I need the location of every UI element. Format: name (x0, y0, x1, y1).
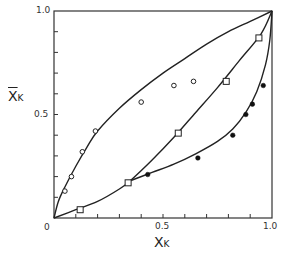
y-axis-label-main: X (8, 88, 18, 104)
x-axis-label-sub: K (164, 239, 170, 249)
y-tick-1-0: 1.0 (36, 5, 50, 15)
data-point-open-circle (172, 83, 177, 88)
chart-plot (0, 0, 281, 256)
data-point-open-square (175, 130, 181, 136)
data-point-open-circle (191, 79, 196, 84)
data-point-filled-circle (261, 83, 266, 88)
data-point-open-circle (93, 129, 98, 134)
plot-frame (54, 11, 272, 218)
data-point-open-circle (69, 174, 74, 179)
x-tick-1-0: 1.0 (263, 221, 277, 231)
data-point-filled-circle (145, 172, 150, 177)
data-point-filled-circle (196, 156, 201, 161)
data-point-open-square (256, 35, 262, 41)
y-axis-label-sub: K (18, 93, 24, 103)
data-point-open-circle (139, 100, 144, 105)
x-axis-label: XK (154, 234, 170, 250)
data-point-filled-circle (250, 102, 255, 107)
data-point-open-square (77, 207, 83, 213)
data-point-filled-circle (230, 133, 235, 138)
x-tick-0-5: 0.5 (155, 221, 169, 231)
y-axis-label: XK (8, 88, 24, 104)
data-point-open-square (223, 78, 229, 84)
fit-curve (130, 11, 272, 181)
x-tick-0: 0 (44, 222, 50, 232)
y-tick-0-5: 0.5 (34, 109, 48, 119)
data-point-open-circle (63, 189, 68, 194)
data-point-open-square (125, 180, 131, 186)
data-point-open-circle (80, 149, 85, 154)
fit-curve (54, 11, 272, 218)
x-axis-label-main: X (154, 234, 164, 250)
data-point-filled-circle (244, 112, 249, 117)
fit-curve (54, 11, 272, 218)
